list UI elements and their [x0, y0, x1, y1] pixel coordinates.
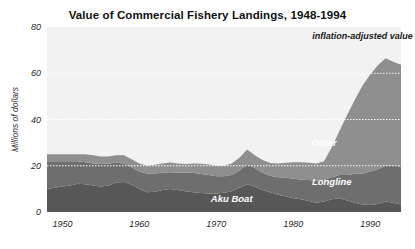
y-axis-title-text: Millions of dollars — [10, 86, 20, 152]
y-tick-label-80: 80 — [31, 22, 41, 32]
x-tick-label-1990: 1990 — [360, 219, 380, 229]
x-tick-label-1980: 1980 — [283, 219, 303, 229]
series-label-longline: Longline — [312, 176, 352, 187]
series-label-other: Other — [311, 137, 338, 148]
series-label-aku-boat: Aku Boat — [210, 193, 254, 204]
y-tick-label-60: 60 — [31, 68, 41, 78]
chart-figure: Value of Commercial Fishery Landings, 19… — [0, 0, 415, 249]
chart-plot-area: 020406080 19501960197019801990 Millions … — [0, 0, 415, 249]
y-axis-tick-labels: 020406080 — [30, 22, 41, 217]
chart-annotations: inflation-adjusted value — [312, 31, 413, 41]
x-tick-label-1960: 1960 — [129, 219, 149, 229]
x-tick-label-1970: 1970 — [206, 219, 226, 229]
y-tick-label-20: 20 — [30, 161, 41, 171]
x-axis-tick-labels: 19501960197019801990 — [52, 219, 380, 229]
y-tick-label-40: 40 — [31, 115, 41, 125]
annotation-inflation-adjusted-value: inflation-adjusted value — [312, 31, 413, 41]
y-axis-title: Millions of dollars — [10, 86, 20, 152]
x-tick-label-1950: 1950 — [52, 219, 72, 229]
y-tick-label-0: 0 — [36, 207, 41, 217]
